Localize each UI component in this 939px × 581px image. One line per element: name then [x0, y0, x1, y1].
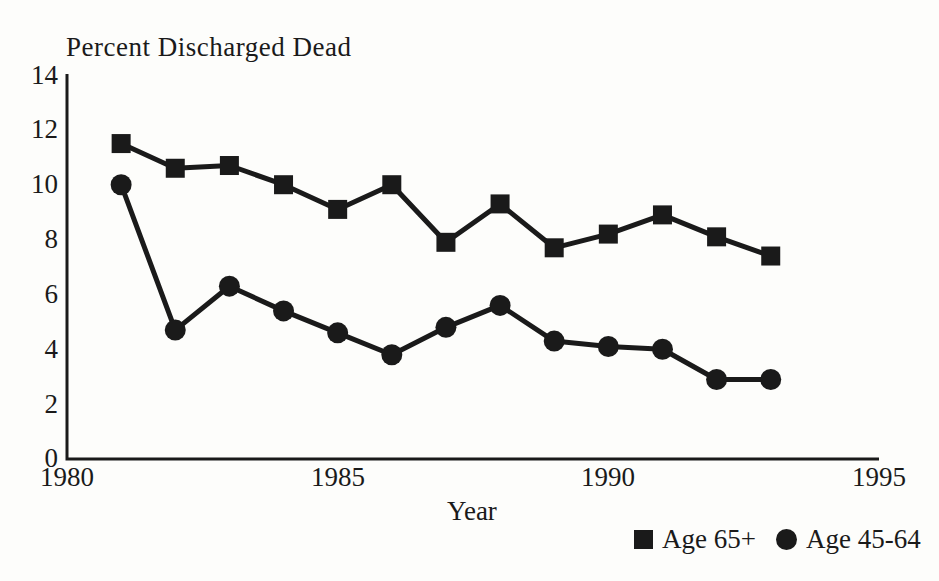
data-point-square-marker — [166, 159, 185, 178]
x-tick-label: 1990 — [563, 464, 653, 491]
series-line-circle — [121, 185, 771, 380]
legend-label-age-45-64: Age 45-64 — [806, 526, 921, 553]
legend-square-marker-icon — [634, 530, 653, 549]
data-point-circle-marker — [273, 300, 294, 321]
data-point-square-marker — [328, 200, 347, 219]
data-point-square-marker — [545, 238, 564, 257]
x-tick-label: 1995 — [834, 464, 924, 491]
data-point-circle-marker — [544, 331, 565, 352]
data-point-square-marker — [274, 175, 293, 194]
data-point-circle-marker — [490, 295, 511, 316]
y-tick-label: 14 — [6, 62, 58, 89]
data-point-square-marker — [382, 175, 401, 194]
x-tick-label: 1985 — [293, 464, 383, 491]
y-tick-label: 6 — [6, 281, 58, 308]
plot-area — [0, 0, 939, 581]
y-tick-label: 10 — [6, 171, 58, 198]
data-point-circle-marker — [111, 174, 132, 195]
y-tick-label: 12 — [6, 116, 58, 143]
data-point-circle-marker — [760, 369, 781, 390]
data-point-square-marker — [653, 205, 672, 224]
x-axis-title: Year — [412, 498, 532, 525]
legend-label-age-65plus: Age 65+ — [662, 526, 756, 553]
legend-circle-marker-icon — [776, 529, 797, 550]
y-tick-label: 4 — [6, 336, 58, 363]
y-tick-label: 2 — [6, 391, 58, 418]
data-point-square-marker — [761, 247, 780, 266]
data-point-square-marker — [707, 227, 726, 246]
data-point-circle-marker — [706, 369, 727, 390]
data-point-square-marker — [220, 156, 239, 175]
axes-lines — [67, 74, 879, 459]
data-point-circle-marker — [381, 344, 402, 365]
x-tick-label: 1980 — [22, 464, 112, 491]
data-point-circle-marker — [435, 317, 456, 338]
data-point-square-marker — [491, 194, 510, 213]
y-tick-label: 8 — [6, 226, 58, 253]
chart-figure: Percent Discharged Dead 0 2 4 6 8 10 12 … — [0, 0, 939, 581]
data-point-square-marker — [112, 134, 131, 153]
data-point-square-marker — [599, 225, 618, 244]
data-point-circle-marker — [219, 276, 240, 297]
data-point-square-marker — [436, 233, 455, 252]
legend: Age 65+ Age 45-64 — [634, 526, 921, 553]
data-point-circle-marker — [652, 339, 673, 360]
data-point-circle-marker — [327, 322, 348, 343]
data-point-circle-marker — [598, 336, 619, 357]
data-point-circle-marker — [165, 320, 186, 341]
